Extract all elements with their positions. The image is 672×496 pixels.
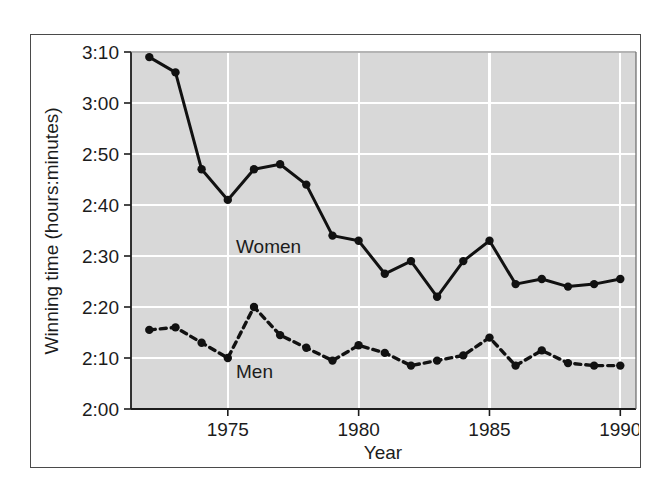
data-point-women <box>433 293 441 301</box>
data-point-women <box>407 257 415 265</box>
y-tick-label: 2:30 <box>82 246 119 267</box>
data-point-men <box>407 361 415 369</box>
data-point-women <box>354 237 362 245</box>
y-axis-tick-labels: 2:002:102:202:302:402:503:003:10 <box>82 42 119 420</box>
data-point-women <box>145 53 153 61</box>
data-point-women <box>485 237 493 245</box>
y-tick-label: 2:00 <box>82 399 119 420</box>
x-tick-label: 1975 <box>207 419 249 440</box>
data-point-men <box>171 323 179 331</box>
data-point-men <box>564 359 572 367</box>
data-point-men <box>381 349 389 357</box>
y-tick-label: 3:10 <box>82 42 119 63</box>
y-tick-label: 2:40 <box>82 195 119 216</box>
data-point-men <box>145 326 153 334</box>
data-point-men <box>354 341 362 349</box>
data-point-women <box>538 275 546 283</box>
data-point-women <box>616 275 624 283</box>
data-point-men <box>538 346 546 354</box>
data-point-men <box>459 351 467 359</box>
x-axis-title: Year <box>364 442 403 463</box>
y-axis-ticks <box>124 52 131 409</box>
data-point-men <box>433 356 441 364</box>
figure-frame: 2:002:102:202:302:402:503:003:10 1975198… <box>30 34 641 468</box>
series-label-women: Women <box>236 236 301 257</box>
data-point-women <box>197 165 205 173</box>
data-point-women <box>381 270 389 278</box>
data-point-men <box>276 331 284 339</box>
x-tick-label: 1990 <box>599 419 639 440</box>
data-point-men <box>511 361 519 369</box>
y-tick-label: 3:00 <box>82 93 119 114</box>
data-point-women <box>328 231 336 239</box>
data-point-men <box>224 354 232 362</box>
data-point-men <box>485 333 493 341</box>
x-tick-label: 1985 <box>468 419 510 440</box>
data-point-men <box>616 361 624 369</box>
data-point-women <box>302 180 310 188</box>
data-point-men <box>302 344 310 352</box>
y-tick-label: 2:10 <box>82 348 119 369</box>
data-point-men <box>250 303 258 311</box>
y-axis-title: Winning time (hours:minutes) <box>41 107 62 354</box>
data-point-women <box>224 196 232 204</box>
marathon-winning-times-chart: 2:002:102:202:302:402:503:003:10 1975198… <box>31 35 639 466</box>
data-point-women <box>276 160 284 168</box>
data-point-women <box>250 165 258 173</box>
series-label-men: Men <box>236 361 273 382</box>
data-point-men <box>197 339 205 347</box>
x-axis-ticks <box>228 409 620 416</box>
x-tick-label: 1980 <box>338 419 380 440</box>
data-point-women <box>511 280 519 288</box>
data-point-men <box>590 361 598 369</box>
data-point-women <box>564 282 572 290</box>
data-point-women <box>171 68 179 76</box>
data-point-women <box>590 280 598 288</box>
data-point-women <box>459 257 467 265</box>
x-axis-tick-labels: 1975198019851990 <box>207 419 639 440</box>
data-point-men <box>328 356 336 364</box>
y-tick-label: 2:20 <box>82 297 119 318</box>
y-tick-label: 2:50 <box>82 144 119 165</box>
